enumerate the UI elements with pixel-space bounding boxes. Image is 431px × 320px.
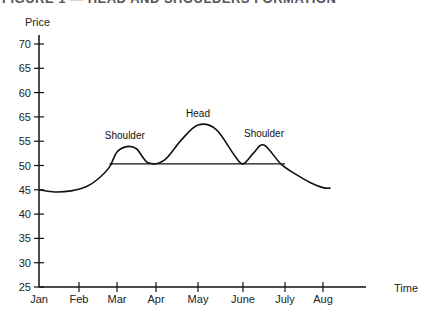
annotation-label: Shoulder <box>105 130 146 141</box>
y-tick-label: 30 <box>19 257 31 269</box>
y-tick-label: 60 <box>19 87 31 99</box>
x-tick-label: June <box>231 293 255 305</box>
y-ticks: 7065606555504540353025 <box>19 38 44 293</box>
x-tick-label: Feb <box>70 293 89 305</box>
y-tick-label: 45 <box>19 184 31 196</box>
y-tick-label: 40 <box>19 208 31 220</box>
x-tick-label: Aug <box>313 293 333 305</box>
x-tick-label: July <box>275 293 295 305</box>
y-tick-label: 55 <box>19 135 31 147</box>
y-axis-label: Price <box>25 16 50 28</box>
annotation-label: Head <box>186 108 210 119</box>
y-tick-label: 50 <box>19 160 31 172</box>
y-tick-label: 35 <box>19 232 31 244</box>
x-tick-label: Jan <box>30 293 48 305</box>
price-line <box>39 124 331 192</box>
y-tick-label: 65 <box>19 111 31 123</box>
x-ticks: JanFebMarAprMayJuneJulyAug <box>30 282 333 305</box>
annotations: ShoulderHeadShoulder <box>105 108 285 141</box>
head-and-shoulders-chart: 7065606555504540353025 JanFebMarAprMayJu… <box>0 0 431 320</box>
annotation-label: Shoulder <box>244 128 285 139</box>
y-tick-label: 70 <box>19 38 31 50</box>
y-tick-label: 25 <box>19 281 31 293</box>
x-axis-label: Time <box>394 282 418 294</box>
x-tick-label: Mar <box>108 293 127 305</box>
axes <box>39 35 366 287</box>
y-tick-label: 65 <box>19 62 31 74</box>
x-tick-label: May <box>188 293 209 305</box>
x-tick-label: Apr <box>147 293 164 305</box>
